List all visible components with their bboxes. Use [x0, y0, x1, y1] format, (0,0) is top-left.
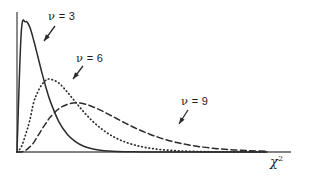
annotation-value: = 6 [83, 52, 103, 64]
annotation-value: = 3 [55, 10, 75, 22]
annotation-arrow-head-nu9 [179, 117, 185, 124]
axes-group [17, 12, 291, 152]
annotation-label-nu-3: ν = 3 [48, 10, 75, 22]
curve-nu-3 [17, 20, 267, 152]
chi-square-distribution-figure: ν = 3 ν = 6 ν = 9 χ2 [0, 0, 314, 176]
annotation-value: = 9 [188, 95, 208, 107]
chi-symbol: χ [270, 154, 278, 169]
chi-exponent: 2 [278, 154, 283, 163]
curve-nu-6 [17, 79, 267, 152]
annotation-pointers-group [44, 26, 188, 124]
plot-canvas [0, 0, 314, 176]
annotation-label-nu-9: ν = 9 [181, 95, 208, 107]
x-axis-label: χ2 [270, 152, 283, 169]
annotation-label-nu-6: ν = 6 [76, 52, 103, 64]
curves-group [17, 20, 267, 152]
